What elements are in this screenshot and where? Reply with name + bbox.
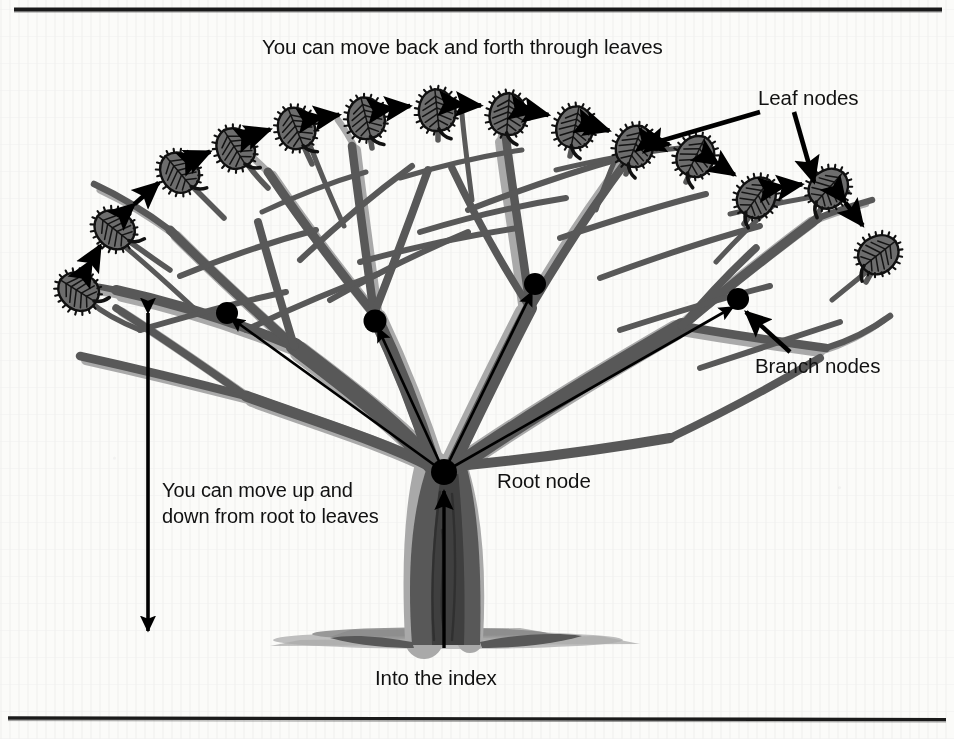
root-node-label: Root node [497, 468, 591, 493]
leaf-sibling-arrow [718, 164, 734, 175]
leaf-sibling-arrow [261, 129, 271, 132]
leaf-sibling-arrow [662, 143, 670, 144]
into-the-index-label: Into the index [375, 665, 497, 690]
bottom-rule [8, 718, 946, 722]
leaf-sibling-arrow [323, 115, 340, 117]
leaf-sibling-arrow [535, 112, 549, 115]
vertical-caption-line-2: down from root to leaves [162, 504, 379, 528]
leaf-node [547, 99, 601, 161]
leaf-sibling-arrow [784, 184, 802, 186]
leaf-node [662, 124, 726, 192]
leaf-nodes-label: Leaf nodes [758, 85, 858, 110]
vertical-caption-line-1: You can move up and [162, 478, 353, 502]
leaf-sibling-arrow [393, 106, 410, 108]
top-rule [14, 10, 942, 13]
leaf-sibling-arrow [92, 245, 101, 260]
leaf-node [266, 97, 328, 164]
leaf-sibling-arrow [204, 152, 210, 155]
figure-page: You can move back and forth through leav… [0, 0, 954, 739]
leaf-sibling-arrow [601, 128, 610, 131]
leaf-node [338, 89, 395, 152]
leaf-sibling-arrow [134, 183, 158, 204]
leaf-sibling-arrow [464, 105, 481, 106]
leaf-node [483, 88, 532, 145]
root-node [431, 459, 457, 485]
top-caption: You can move back and forth through leav… [262, 34, 663, 59]
leaf-node [203, 116, 270, 186]
leaf-node [841, 221, 911, 290]
branch-nodes-label: Branch nodes [755, 353, 880, 378]
